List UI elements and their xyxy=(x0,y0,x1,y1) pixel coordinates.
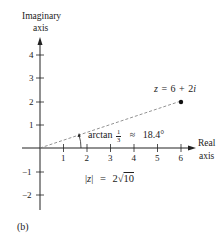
x-tick-6: 6 xyxy=(179,154,184,163)
x-tick-4: 4 xyxy=(132,154,137,163)
y-tick-3: 3 xyxy=(29,74,34,83)
fraction-one-third: 13 xyxy=(116,129,121,143)
y-tick-1: 1 xyxy=(29,121,34,130)
x-tick-5: 5 xyxy=(155,154,160,163)
point-z xyxy=(179,100,183,104)
x-tick-2: 2 xyxy=(85,154,90,163)
y-tick-neg2: −2 xyxy=(22,191,32,200)
point-label: z = 6 + 2i xyxy=(154,84,196,94)
x-tick-1: 1 xyxy=(61,154,66,163)
imaginary-axis-arrow-icon xyxy=(38,37,43,45)
imaginary-axis-label-line1: Imaginary xyxy=(22,12,61,22)
y-tick-neg1: −1 xyxy=(22,168,32,177)
real-axis-label-line2: axis xyxy=(199,152,214,162)
panel-label: (b) xyxy=(17,222,29,232)
real-axis-arrow-icon xyxy=(188,146,196,151)
angle-label: arctan 13 ≈ 18.4° xyxy=(88,129,164,143)
angle-arc xyxy=(79,135,81,148)
y-tick-2: 2 xyxy=(29,98,34,107)
x-tick-3: 3 xyxy=(108,154,113,163)
imaginary-axis-label-line2: axis xyxy=(33,24,48,34)
y-tick-4: 4 xyxy=(29,51,34,60)
real-axis-label-line1: Real xyxy=(198,139,215,149)
modulus-label: |z| = 2√10 xyxy=(85,174,134,185)
